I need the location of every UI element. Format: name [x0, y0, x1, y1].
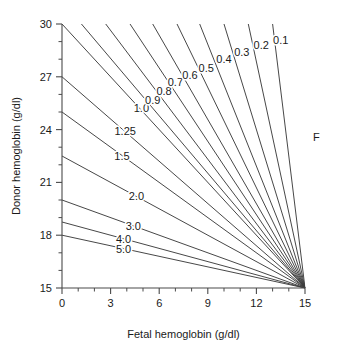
- x-axis-title: Fetal hemoglobin (g/dl): [127, 328, 240, 340]
- y-axis-title: Donor hemoglobin (g/dl): [10, 97, 22, 215]
- y-tick-label: 24: [40, 124, 52, 136]
- y-tick-label: 21: [40, 176, 52, 188]
- ratio-line-label: 0.3: [234, 46, 249, 58]
- ratio-line-label: 0.1: [273, 34, 288, 46]
- y-tick-label: 27: [40, 71, 52, 83]
- ratio-line-label: 0.2: [254, 39, 269, 51]
- ratio-line: [248, 24, 305, 288]
- ratio-line-label: 4.0: [116, 233, 131, 245]
- ratio-line-label: 0.5: [199, 62, 214, 74]
- curve-labels-group: 5.04.03.02.01.51.251.00.90.80.70.60.50.4…: [114, 34, 288, 255]
- x-tick-label: 15: [299, 297, 311, 309]
- ratio-line: [62, 222, 305, 288]
- y-tick-label: 30: [40, 18, 52, 30]
- nomogram-plot: 03691215151821242730Fetal hemoglobin (g/…: [0, 0, 339, 349]
- ratio-line: [62, 24, 305, 288]
- x-tick-label: 12: [250, 297, 262, 309]
- x-tick-label: 6: [156, 297, 162, 309]
- ratio-line-label: 0.7: [168, 76, 183, 88]
- ratio-line-label: 0.4: [216, 53, 231, 65]
- ratio-line: [62, 77, 305, 288]
- tick-labels-group: 03691215151821242730: [40, 18, 311, 309]
- ratio-line-label: 1.5: [114, 150, 129, 162]
- ratio-line-label: 1.25: [114, 125, 135, 137]
- annotation-label-f: F: [313, 131, 320, 143]
- y-tick-label: 18: [40, 229, 52, 241]
- x-tick-label: 3: [108, 297, 114, 309]
- y-tick-label: 15: [40, 282, 52, 294]
- x-tick-label: 9: [205, 297, 211, 309]
- ratio-line: [224, 24, 305, 288]
- ratio-line: [62, 156, 305, 288]
- ratio-line-label: 3.0: [126, 220, 141, 232]
- ratio-line-label: 0.6: [182, 69, 197, 81]
- fan-lines-group: [62, 24, 305, 288]
- x-tick-label: 0: [59, 297, 65, 309]
- chart-container: 03691215151821242730Fetal hemoglobin (g/…: [0, 0, 339, 349]
- ratio-line-label: 2.0: [129, 190, 144, 202]
- axes-group: [56, 24, 305, 294]
